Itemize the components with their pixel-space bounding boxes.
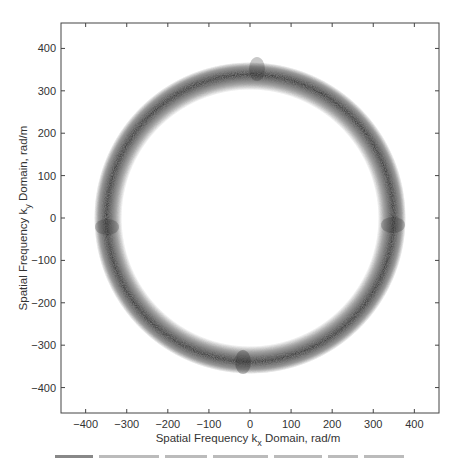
x-tick-label: 100 [282,418,300,430]
x-tick-label: 300 [364,418,382,430]
y-tick-label: 300 [38,85,56,97]
y-tick-label: −300 [31,339,56,351]
y-tick-label: 100 [38,170,56,182]
y-axis-label: Spatial Frequency ky Domain, rad/m [17,126,33,311]
x-tick-label: −100 [197,418,222,430]
x-axis-label: Spatial Frequency kx Domain, rad/m [156,432,341,448]
y-tick-label: 400 [38,42,56,54]
y-tick-label: 200 [38,127,56,139]
x-tick-label: 400 [405,418,423,430]
y-tick-label: 0 [50,212,56,224]
x-tick-label: −200 [155,418,180,430]
x-tick-label: −400 [73,418,98,430]
y-tick-label: −200 [31,297,56,309]
y-tick-label: −400 [31,382,56,394]
y-tick-label: −100 [31,254,56,266]
x-tick-label: 0 [247,418,253,430]
ring-scatter-chart: −400−300−200−1000100200300400 −400−300−2… [0,0,458,462]
figure-caption-clipped [55,455,415,462]
x-tick-label: −300 [114,418,139,430]
ring-point-cloud [94,57,406,374]
x-tick-label: 200 [323,418,341,430]
